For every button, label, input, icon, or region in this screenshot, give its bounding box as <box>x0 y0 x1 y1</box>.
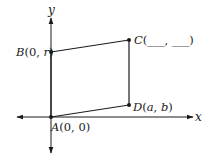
segment-da <box>51 105 129 117</box>
y-axis-label: y <box>47 3 55 17</box>
label-d: D(a, b) <box>132 100 173 114</box>
x-axis-label: x <box>195 110 202 124</box>
segment-bc <box>51 40 129 52</box>
label-a: A(0, 0) <box>50 120 90 134</box>
coordinate-diagram: y x B(0, r) C(___, ___) D(a, b) A(0, 0) <box>0 0 209 165</box>
label-b: B(0, r) <box>15 45 54 59</box>
point-d <box>127 103 131 107</box>
point-a <box>49 115 53 119</box>
point-c <box>127 38 131 42</box>
label-c: C(___, ___) <box>134 33 194 47</box>
